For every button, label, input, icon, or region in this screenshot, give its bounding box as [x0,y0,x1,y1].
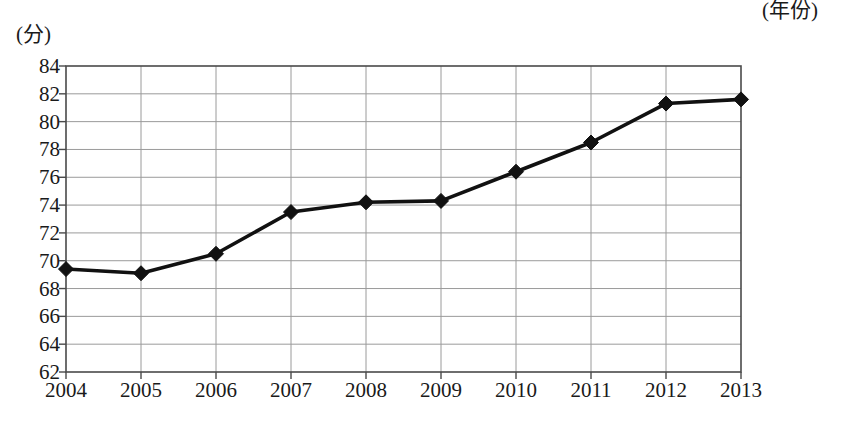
x-tick-label: 2004 [45,380,87,401]
x-tick-label: 2007 [270,380,312,401]
data-point-marker [359,195,374,210]
x-axis-tick-labels: 2004200520062007200820092010201120122013 [0,380,858,414]
data-point-marker [59,262,74,277]
data-point-marker [284,205,299,220]
data-point-marker [584,135,599,150]
line-chart: (分) 626466687072747678808284 20042005200… [0,0,858,435]
x-tick-label: 2005 [120,380,162,401]
x-tick-label: 2013 [720,380,762,401]
x-tick-label: 2006 [195,380,237,401]
x-tick-label: 2009 [420,380,462,401]
plot-area [0,0,858,435]
grid-lines [66,66,741,372]
data-series [59,92,749,281]
x-tick-label: 2011 [570,380,611,401]
x-tick-label: 2012 [645,380,687,401]
data-point-marker [434,193,449,208]
data-point-marker [209,246,224,261]
axis-frame [66,66,741,372]
x-tick-label: 2008 [345,380,387,401]
axis-ticks [59,66,741,379]
x-axis-unit-label: (年份) [762,0,818,21]
data-point-marker [659,96,674,111]
data-point-marker [134,266,149,281]
x-tick-label: 2010 [495,380,537,401]
